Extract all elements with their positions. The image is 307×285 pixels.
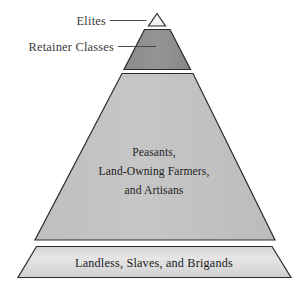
peasants-label-line-2: Land-Owning Farmers, [99, 165, 210, 178]
apex-triangle-elites [149, 14, 166, 27]
peasants-label-line-3: and Artisans [125, 184, 184, 197]
callout-label-retainer-classes: Retainer Classes [29, 40, 114, 54]
social-pyramid-figure: Elites Retainer Classes Peasants, Land-O… [0, 0, 307, 285]
pyramid-diagram: Elites Retainer Classes Peasants, Land-O… [0, 0, 307, 285]
landless-label: Landless, Slaves, and Brigands [75, 256, 233, 270]
callout-label-elites: Elites [77, 14, 106, 28]
retainer-classes-trapezoid [124, 30, 191, 70]
peasants-label-line-1: Peasants, [132, 146, 176, 159]
